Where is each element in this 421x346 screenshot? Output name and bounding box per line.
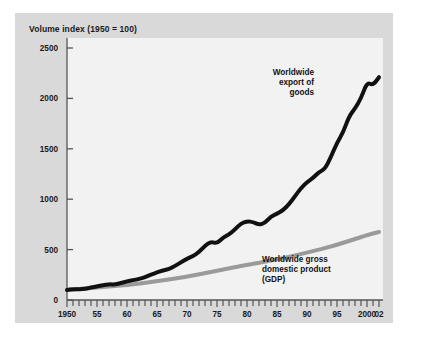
annotation-gdp-line2: domestic product <box>262 265 331 274</box>
y-tick-label: 500 <box>44 246 58 255</box>
annotation-exports-line3: goods <box>289 88 314 97</box>
x-tick-label: 60 <box>122 310 132 319</box>
plot-background <box>67 38 383 300</box>
annotation-exports-line2: export of <box>279 78 314 87</box>
x-tick-label: 55 <box>92 310 102 319</box>
chart-panel: Volume index (1950 = 100) 05001000150020… <box>15 13 393 323</box>
x-tick-label: 95 <box>332 310 342 319</box>
x-tick-label: 70 <box>182 310 192 319</box>
chart-figure: Volume index (1950 = 100) 05001000150020… <box>0 0 421 346</box>
x-tick-label: 02 <box>374 310 384 319</box>
x-tick-label: 65 <box>152 310 162 319</box>
y-tick-label: 1000 <box>40 195 59 204</box>
plot-area: 0500100015002000250019505560657075808590… <box>15 13 393 323</box>
x-tick-label: 85 <box>272 310 282 319</box>
x-tick-label: 75 <box>212 310 222 319</box>
x-tick-label: 90 <box>302 310 312 319</box>
y-tick-label: 2000 <box>40 94 59 103</box>
y-tick-label: 0 <box>53 296 58 305</box>
chart-svg: 0500100015002000250019505560657075808590… <box>15 13 393 323</box>
y-tick-label: 2500 <box>40 44 59 53</box>
x-tick-label: 1950 <box>58 310 77 319</box>
x-tick-label: 80 <box>242 310 252 319</box>
annotation-gdp-line3: (GDP) <box>262 275 285 284</box>
annotation-exports-line1: Worldwide <box>273 68 315 77</box>
y-tick-label: 1500 <box>40 145 59 154</box>
annotation-gdp-line1: Worldwide gross <box>262 255 328 264</box>
